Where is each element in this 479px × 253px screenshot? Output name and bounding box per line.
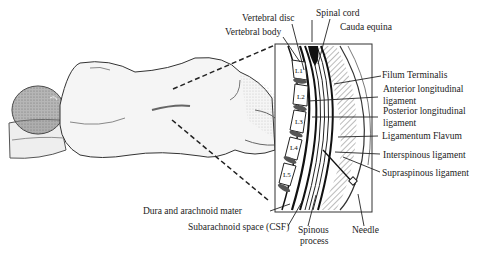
lumbar-puncture-diagram: L1 L2 L3 L4 L5 (0, 0, 479, 253)
svg-text:L2: L2 (297, 93, 305, 101)
label-anterior-longitudinal-ligament: Anterior longitudinal (383, 84, 463, 94)
label-interspinous-ligament: Interspinous ligament (383, 150, 466, 160)
svg-text:L1: L1 (295, 67, 303, 75)
label-posterior-longitudinal-ligament: Posterior longitudinal (383, 106, 466, 116)
label-filum-terminalis: Filum Terminalis (382, 70, 447, 80)
label-spinous-process-2: process (300, 236, 329, 246)
label-supraspinous-ligament: Supraspinous ligament (382, 168, 469, 178)
svg-text:L5: L5 (283, 171, 291, 179)
label-needle: Needle (352, 225, 379, 235)
label-anterior-longitudinal-ligament-2: ligament (383, 96, 416, 106)
label-vertebral-disc: Vertebral disc (242, 13, 295, 23)
label-cauda-equina: Cauda equina (340, 22, 392, 32)
label-posterior-longitudinal-ligament-2: ligament (383, 118, 416, 128)
label-dura-arachnoid-mater: Dura and arachnoid mater (143, 206, 242, 216)
svg-text:L4: L4 (290, 144, 298, 152)
label-spinous-process: Spinous (298, 225, 329, 235)
label-vertebral-body: Vertebral body (225, 27, 281, 37)
svg-text:L3: L3 (295, 118, 303, 126)
label-subarachnoid-space: Subarachnoid space (CSF) (188, 222, 289, 232)
label-ligamentum-flavum: Ligamentum Flavum (382, 131, 462, 141)
label-spinal-cord: Spinal cord (316, 8, 360, 18)
patient-body (60, 58, 275, 158)
